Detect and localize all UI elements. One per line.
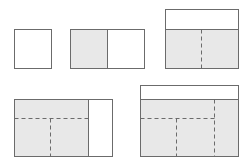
figure-step-5 (140, 85, 239, 157)
diagram-canvas (0, 0, 249, 161)
shaded-region (165, 29, 238, 68)
figure-step-4 (14, 99, 113, 157)
shaded-region (140, 99, 238, 156)
figure-step-1 (14, 29, 52, 69)
outer-fill (14, 29, 51, 68)
figure-step-2 (70, 29, 145, 69)
shaded-region (70, 29, 107, 68)
figure-step-3 (165, 9, 239, 69)
